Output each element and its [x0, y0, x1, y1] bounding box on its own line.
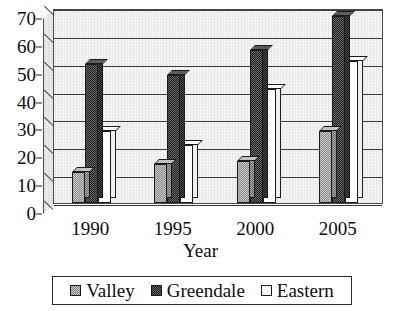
bar-valley-1990: [72, 172, 85, 203]
legend-item-valley: Valley: [70, 280, 135, 302]
x-axis-tick-label: 1990: [62, 218, 118, 240]
y-axis-tick-mark: [36, 214, 42, 215]
y-axis-tick-mark: [36, 19, 42, 20]
bar-side: [193, 140, 198, 199]
y-axis-tick-label: 30: [2, 120, 36, 139]
bar-side: [345, 11, 350, 198]
y-axis-tick-label: 10: [2, 176, 36, 195]
legend-swatch-eastern-icon: [261, 285, 272, 296]
legend-item-label: Eastern: [277, 280, 334, 302]
y-axis-tick-mark: [36, 74, 42, 75]
y-axis: 706050403020100: [0, 0, 36, 225]
plot-back-wall: [53, 9, 383, 204]
bar-face: [319, 131, 332, 203]
bar-side: [250, 156, 255, 198]
bar-top: [167, 70, 190, 75]
bar-valley-1995: [154, 164, 167, 203]
bar-side: [332, 126, 337, 198]
bar-valley-2005: [319, 131, 332, 203]
bar-side: [180, 70, 185, 198]
bar-chart: 706050403020100 1990199520002005 Year Va…: [0, 0, 401, 311]
bar-group: [237, 10, 276, 203]
x-axis-tick-label: 2000: [227, 218, 283, 240]
x-axis-tick-label: 1995: [145, 218, 201, 240]
y-axis-tick-label: 40: [2, 93, 36, 112]
legend-item-greendale: Greendale: [151, 280, 245, 302]
bar-face: [237, 161, 250, 203]
y-axis-tick-mark: [36, 158, 42, 159]
bar-side: [358, 56, 363, 198]
x-axis-title: Year: [0, 240, 401, 262]
y-axis-tick-label: 70: [2, 9, 36, 28]
gridline: [54, 205, 382, 206]
legend-swatch-greendale-icon: [151, 285, 162, 296]
legend-item-eastern: Eastern: [261, 280, 334, 302]
bar-side: [167, 159, 172, 198]
bar-side: [98, 59, 103, 198]
bar-side: [111, 126, 116, 198]
bar-top: [85, 59, 108, 64]
bar-top: [250, 45, 273, 50]
legend-swatch-valley-icon: [70, 285, 81, 296]
legend-item-label: Valley: [86, 280, 135, 302]
bar-side: [276, 84, 281, 198]
bar-face: [72, 172, 85, 203]
y-axis-tick-mark: [36, 130, 42, 131]
plot-area: [43, 9, 383, 214]
bar-group: [72, 10, 111, 203]
y-axis-tick-mark: [36, 46, 42, 47]
legend-item-label: Greendale: [167, 280, 245, 302]
y-axis-tick-label: 50: [2, 65, 36, 84]
x-axis-tick-label: 2005: [310, 218, 366, 240]
y-axis-tick-label: 0: [2, 204, 36, 223]
bar-group: [319, 10, 358, 203]
y-axis-tick-mark: [36, 102, 42, 103]
y-axis-tick-label: 60: [2, 37, 36, 56]
y-axis-tick-label: 20: [2, 148, 36, 167]
y-axis-tick-mark: [36, 186, 42, 187]
bar-side: [263, 45, 268, 198]
bar-valley-2000: [237, 161, 250, 203]
bar-face: [154, 164, 167, 203]
bar-group: [154, 10, 193, 203]
bar-top: [332, 11, 355, 16]
chart-legend: ValleyGreendaleEastern: [52, 276, 352, 305]
